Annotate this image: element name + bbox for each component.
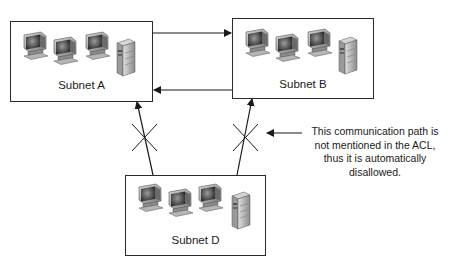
workstation-icon — [24, 32, 48, 60]
workstation-icon — [246, 29, 270, 57]
workstation-icon — [199, 184, 223, 212]
workstation-icon — [139, 184, 163, 212]
workstation-icon — [276, 34, 300, 62]
blocked-x-icon-d-a — [132, 124, 157, 151]
annotation-line: not mentioned in the ACL, — [300, 139, 450, 153]
server-icon — [232, 192, 250, 229]
subnet-d-label: Subnet D — [126, 234, 265, 246]
workstation-icon — [169, 189, 193, 217]
server-icon — [117, 39, 135, 76]
annotation-line: This communication path is — [300, 125, 450, 139]
subnet-b-box: Subnet B — [232, 18, 374, 99]
blocked-x-icon-d-b — [233, 124, 258, 151]
subnet-b-devices — [233, 19, 375, 81]
annotation-line: thus it is automatically — [300, 152, 450, 166]
subnet-a-box: Subnet A — [10, 21, 153, 102]
subnet-d-box: Subnet D — [125, 175, 266, 256]
acl-annotation: This communication path is not mentioned… — [300, 125, 450, 179]
workstation-icon — [54, 37, 78, 65]
server-icon — [339, 37, 357, 74]
workstation-icon — [86, 32, 110, 60]
workstation-icon — [308, 29, 332, 57]
subnet-a-devices — [11, 22, 154, 84]
annotation-line: disallowed. — [300, 166, 450, 180]
subnet-d-devices — [126, 176, 267, 238]
subnet-b-label: Subnet B — [233, 78, 373, 90]
subnet-a-label: Subnet A — [11, 79, 152, 91]
